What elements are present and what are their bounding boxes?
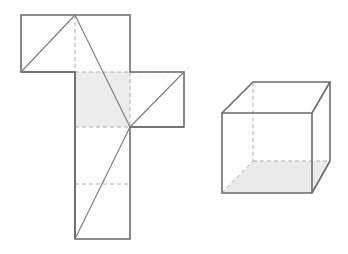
geometry-figure-svg: Cube net and cube solid xyxy=(0,0,348,254)
figure-stage: Cube net and cube solid xyxy=(0,0,348,254)
net-face-center-shaded xyxy=(75,72,130,127)
